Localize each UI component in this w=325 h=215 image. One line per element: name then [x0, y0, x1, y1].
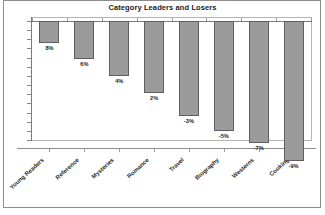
bar-value-label: 6%	[70, 61, 98, 67]
bar-value-label: -3%	[175, 118, 203, 124]
bar-value-label: 8%	[35, 45, 63, 51]
bar	[74, 21, 94, 59]
y-axis-tick	[27, 113, 31, 114]
y-axis-tick	[27, 48, 31, 49]
bar-value-label: 4%	[105, 78, 133, 84]
y-axis-tick	[27, 94, 31, 95]
chart-title: Category Leaders and Losers	[0, 3, 325, 12]
y-axis-tick	[27, 30, 31, 31]
x-axis-tick-bottom	[84, 149, 85, 152]
y-axis-tick	[27, 103, 31, 104]
x-axis-tick-bottom	[119, 149, 120, 152]
x-axis-tick-top	[311, 18, 312, 21]
y-axis-tick	[27, 58, 31, 59]
y-axis-tick	[27, 21, 31, 22]
bar-value-label: -5%	[210, 133, 238, 139]
y-axis-tick	[27, 67, 31, 68]
bar-value-label: -9%	[280, 163, 308, 169]
x-axis-tick-bottom	[189, 149, 190, 152]
bar	[284, 21, 304, 161]
bar	[39, 21, 59, 43]
bar	[144, 21, 164, 93]
bar	[249, 21, 269, 143]
chart-screenshot: Category Leaders and Losers Young Reader…	[0, 0, 325, 215]
bar	[179, 21, 199, 116]
bar-value-label: -7%	[245, 145, 273, 151]
y-axis-tick	[27, 122, 31, 123]
x-axis-tick-bottom	[49, 149, 50, 152]
y-axis-tick	[27, 76, 31, 77]
x-axis-tick-bottom	[154, 149, 155, 152]
bar	[109, 21, 129, 76]
bar-value-label: 2%	[140, 95, 168, 101]
x-axis-tick-bottom	[224, 149, 225, 152]
y-axis-tick	[27, 140, 31, 141]
y-axis-tick	[27, 85, 31, 86]
bar	[214, 21, 234, 131]
y-axis-tick	[27, 39, 31, 40]
y-axis-tick	[27, 131, 31, 132]
